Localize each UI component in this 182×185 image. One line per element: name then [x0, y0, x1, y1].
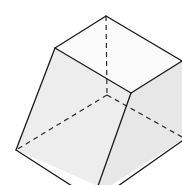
- frustum-solid-drawing: [0, 0, 182, 185]
- diagram-canvas: [0, 0, 182, 185]
